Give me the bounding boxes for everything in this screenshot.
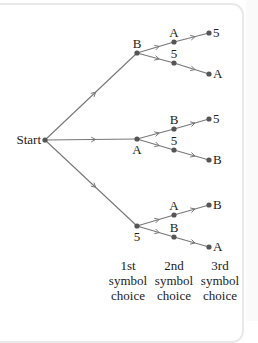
- branch-line: [137, 42, 174, 53]
- node-label: A: [169, 198, 179, 213]
- column-label: symbol: [201, 273, 240, 288]
- branch-line: [137, 53, 174, 63]
- node-label: A: [132, 142, 142, 157]
- node-dot: [134, 223, 139, 228]
- leaf-label: B: [213, 197, 222, 212]
- column-label: choice: [203, 288, 237, 303]
- node-label: 5: [134, 229, 141, 244]
- node-dot: [134, 50, 139, 55]
- column-label: symbol: [155, 273, 194, 288]
- branch-line: [45, 140, 137, 226]
- branch-line: [174, 63, 209, 74]
- leaf-label: 5: [213, 111, 220, 126]
- branch-line: [174, 237, 209, 247]
- node-dot: [206, 244, 211, 249]
- column-label: choice: [157, 288, 191, 303]
- column-label: 3rd: [211, 258, 229, 273]
- leaf-label: A: [213, 239, 223, 254]
- leaf-label: A: [213, 66, 223, 81]
- node-dot: [206, 202, 211, 207]
- leaf-label: B: [213, 152, 222, 167]
- branch-line: [174, 119, 209, 129]
- branch-line: [137, 139, 174, 150]
- node-dot: [42, 137, 47, 142]
- column-label: symbol: [109, 273, 148, 288]
- branch-line: [45, 53, 137, 140]
- column-label: 1st: [120, 258, 136, 273]
- column-label: 2nd: [164, 258, 184, 273]
- node-dot: [171, 39, 176, 44]
- node-label: 5: [171, 133, 178, 148]
- node-dot: [206, 116, 211, 121]
- node-dot: [134, 136, 139, 141]
- node-label: B: [170, 112, 179, 127]
- branch-line: [137, 215, 174, 226]
- node-label: B: [133, 36, 142, 51]
- node-dot: [206, 30, 211, 35]
- node-dot: [171, 234, 176, 239]
- node-dot: [171, 147, 176, 152]
- branch-line: [174, 33, 209, 42]
- branch-line: [137, 226, 174, 237]
- node-dot: [171, 212, 176, 217]
- column-label: choice: [111, 288, 145, 303]
- node-dot: [206, 71, 211, 76]
- node-dot: [171, 60, 176, 65]
- leaf-label: 5: [213, 25, 220, 40]
- branch-line: [45, 139, 137, 140]
- branch-line: [137, 129, 174, 139]
- start-label: Start: [16, 132, 41, 147]
- node-label: 5: [171, 46, 178, 61]
- node-label: B: [170, 220, 179, 235]
- node-dot: [171, 126, 176, 131]
- node-dot: [206, 157, 211, 162]
- branch-line: [174, 205, 209, 215]
- node-label: A: [169, 25, 179, 40]
- branch-line: [174, 150, 209, 160]
